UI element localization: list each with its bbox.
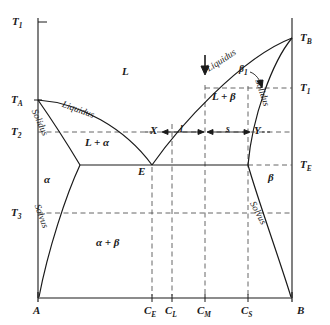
region-label-liquid-plus-beta: L + β [212, 91, 236, 102]
axis-label-CM: CM [197, 305, 211, 319]
solvus-curve-right [248, 165, 291, 297]
tick-marks [34, 22, 292, 302]
axis-label-B: B [297, 305, 304, 316]
axis-label-A: A [33, 305, 40, 316]
point-label-beta-one: β1 [239, 65, 248, 76]
axis-label-TB: TB [300, 32, 312, 46]
composition-dashed-lines [152, 85, 248, 296]
region-label-alpha-plus-beta: α + β [96, 237, 120, 248]
region-label-alpha: α [44, 174, 50, 185]
phase-diagram-figure: T1 TA T2 T3 TB T1 TE A CE CL CM CS B L L… [0, 0, 330, 325]
point-label-tie-line-X: X [150, 125, 157, 136]
tie-arrow-l-right [198, 130, 204, 135]
tie-arrow-s-left [207, 130, 213, 135]
tie-segment-label-l: l [180, 125, 183, 135]
axis-label-CL: CL [165, 305, 177, 319]
axis-label-T2: T2 [11, 126, 21, 140]
axis-label-T3: T3 [11, 207, 21, 221]
axis-label-T1-left: T1 [12, 16, 22, 30]
point-label-eutectic-E: E [138, 166, 145, 177]
tie-arrow-l-left [162, 130, 168, 135]
tie-segment-label-s: s [226, 125, 230, 135]
axis-label-CS: CS [241, 305, 253, 319]
region-label-liquid-plus-alpha: L + α [85, 137, 109, 148]
axis-label-T1-right: T1 [300, 82, 310, 96]
point-label-tie-line-Y: Y [254, 125, 261, 136]
phase-diagram-canvas [0, 0, 330, 325]
axis-label-TA: TA [11, 94, 23, 108]
region-label-liquid: L [122, 66, 129, 77]
axis-label-TE: TE [300, 159, 312, 173]
tie-arrow-s-right [244, 130, 250, 135]
region-label-beta: β [268, 172, 274, 183]
axis-label-CE: CE [144, 305, 156, 319]
